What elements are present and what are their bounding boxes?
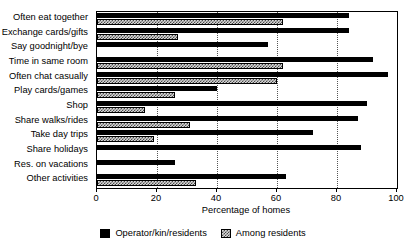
bar-among-residents: [97, 180, 196, 186]
category-label: Share walks/rides: [15, 115, 88, 125]
bar-group: [97, 41, 397, 56]
bar-group: [97, 144, 397, 159]
bar-operator-kin-residents: [97, 116, 358, 121]
bar-operator-kin-residents: [97, 101, 367, 106]
axis-tick-label: 60: [271, 193, 281, 204]
axis-tick-label: 0: [93, 193, 98, 204]
bar-group: [97, 100, 397, 115]
axis-tick-label: 100: [388, 193, 404, 204]
legend-label: Operator/kin/residents: [115, 228, 206, 239]
category-label: Often chat casually: [9, 71, 88, 81]
bar-group: [97, 129, 397, 144]
plot-inner: [97, 12, 397, 188]
category-label: Say goodnight/bye: [11, 41, 88, 51]
x-axis-title: Percentage of homes: [96, 204, 396, 216]
bar-operator-kin-residents: [97, 130, 313, 135]
bar-among-residents: [97, 136, 154, 142]
legend-swatch-hatched-gray-icon: [221, 229, 231, 238]
axis-tick: [96, 188, 97, 192]
axis-tick: [216, 188, 217, 192]
bar-among-residents: [97, 107, 145, 113]
category-label: Exchange cards/gifts: [2, 27, 88, 37]
bar-group: [97, 159, 397, 174]
bar-operator-kin-residents: [97, 42, 268, 47]
plot-area: [96, 11, 398, 189]
axis-tick-label: 20: [151, 193, 161, 204]
bar-group: [97, 85, 397, 100]
category-label: Res. on vacations: [14, 159, 88, 169]
chart-legend: Operator/kin/residents Among residents: [0, 228, 406, 239]
bar-operator-kin-residents: [97, 72, 388, 77]
category-label: Other activities: [27, 173, 88, 183]
category-label: Shop: [66, 100, 88, 110]
bar-among-residents: [97, 92, 175, 98]
category-label: Often eat together: [13, 12, 88, 22]
axis-tick: [336, 188, 337, 192]
bar-chart: Often eat togetherExchange cards/giftsSa…: [0, 0, 406, 248]
bar-operator-kin-residents: [97, 13, 349, 18]
axis-tick: [396, 188, 397, 192]
bar-operator-kin-residents: [97, 145, 361, 150]
legend-label: Among residents: [236, 228, 306, 239]
bar-group: [97, 173, 397, 188]
bar-operator-kin-residents: [97, 28, 349, 33]
bar-group: [97, 71, 397, 86]
bar-group: [97, 115, 397, 130]
bar-group: [97, 12, 397, 27]
legend-item-among-residents: Among residents: [221, 228, 306, 239]
bar-operator-kin-residents: [97, 174, 286, 179]
bar-operator-kin-residents: [97, 57, 373, 62]
bar-operator-kin-residents: [97, 160, 175, 165]
category-label: Share holidays: [26, 144, 88, 154]
category-axis: Often eat togetherExchange cards/giftsSa…: [0, 11, 92, 187]
axis-tick-label: 80: [331, 193, 341, 204]
legend-item-operator-kin-residents: Operator/kin/residents: [100, 228, 206, 239]
bar-among-residents: [97, 63, 283, 69]
bar-among-residents: [97, 19, 283, 25]
bar-group: [97, 27, 397, 42]
category-label: Take day trips: [31, 129, 88, 139]
axis-tick: [156, 188, 157, 192]
bar-among-residents: [97, 78, 277, 84]
axis-tick-label: 40: [211, 193, 221, 204]
bar-among-residents: [97, 34, 178, 40]
bar-group: [97, 56, 397, 71]
category-label: Play cards/games: [14, 85, 88, 95]
axis-tick: [276, 188, 277, 192]
category-label: Time in same room: [9, 56, 88, 66]
bar-operator-kin-residents: [97, 86, 217, 91]
bar-among-residents: [97, 122, 190, 128]
legend-swatch-solid-black-icon: [100, 229, 110, 238]
